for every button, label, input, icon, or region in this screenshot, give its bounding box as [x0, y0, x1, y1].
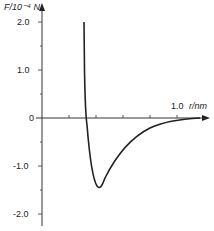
- y-tick-label-0: 0: [29, 113, 34, 123]
- y-tick-label-neg1: -1.0: [13, 161, 29, 171]
- x-axis-label: r/nm: [189, 101, 207, 111]
- y-axis-label: F/10⁻⁴ N: [4, 2, 40, 12]
- x-tick-label-1: 1.0: [171, 101, 184, 111]
- y-tick-label-2: 2.0: [17, 17, 30, 27]
- x-axis-arrow-icon: [202, 115, 210, 121]
- y-tick-label-1: 1.0: [17, 65, 30, 75]
- y-tick-label-neg2: -2.0: [13, 209, 29, 219]
